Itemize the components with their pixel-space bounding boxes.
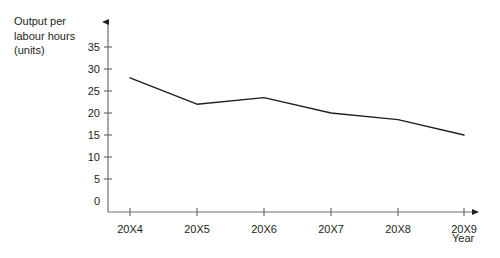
data-series-line bbox=[130, 78, 464, 135]
plot-area bbox=[0, 0, 500, 258]
line-chart: Output per labour hours (units) Year 35 … bbox=[0, 0, 500, 258]
